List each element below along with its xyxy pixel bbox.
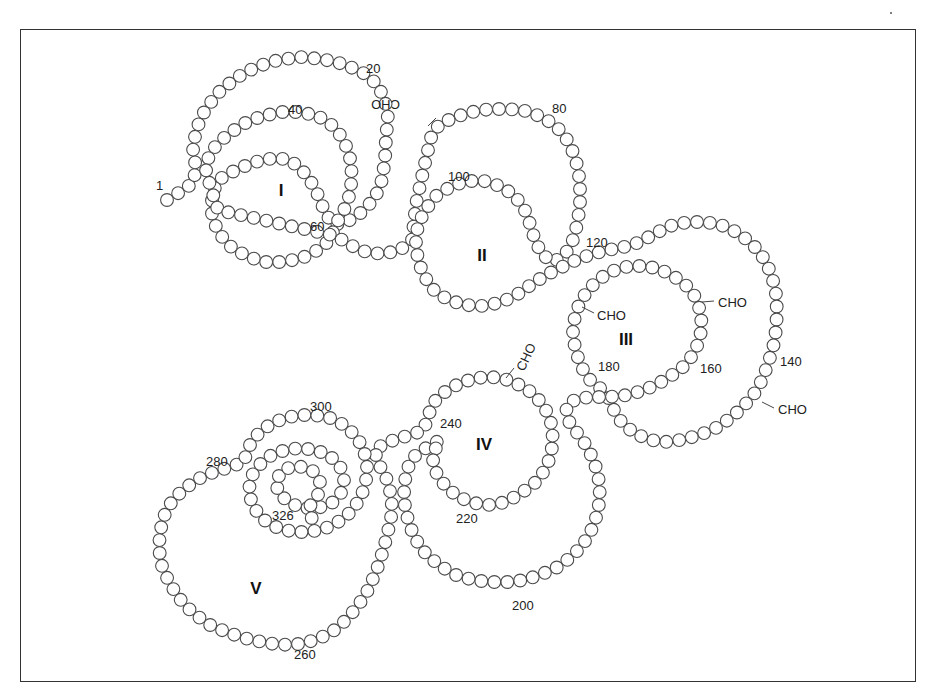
- residue-bead: [590, 511, 603, 524]
- residue-bead: [478, 175, 491, 188]
- residue-number-60: 60: [310, 219, 324, 234]
- residue-bead: [316, 630, 329, 643]
- residue-number-labels: 1204060801001201401601802002202402602803…: [156, 61, 802, 662]
- residue-bead: [261, 420, 274, 433]
- residue-bead: [321, 54, 334, 67]
- residue-bead: [592, 499, 605, 512]
- residue-bead: [273, 256, 286, 269]
- residue-bead: [422, 200, 435, 213]
- residue-bead: [345, 165, 358, 178]
- residue-bead: [345, 61, 358, 74]
- residue-bead: [276, 106, 289, 119]
- residue-bead: [507, 491, 520, 504]
- residue-bead: [379, 536, 392, 549]
- residue-bead: [519, 105, 532, 118]
- residue-bead: [375, 548, 388, 561]
- residue-bead: [546, 429, 559, 442]
- residue-bead: [573, 170, 586, 183]
- residue-bead: [442, 114, 455, 127]
- residue-bead: [673, 434, 686, 447]
- residue-bead: [568, 338, 581, 351]
- residue-bead: [643, 381, 656, 394]
- residue-bead: [487, 371, 500, 384]
- residue-bead: [328, 624, 341, 637]
- residue-bead: [285, 410, 298, 423]
- residue-bead: [308, 525, 321, 538]
- residue-bead: [523, 216, 536, 229]
- residue-bead: [379, 136, 392, 149]
- residue-bead: [158, 508, 171, 521]
- residue-bead: [188, 169, 201, 182]
- residue-bead: [560, 133, 573, 146]
- residue-bead: [614, 415, 627, 428]
- glycosylation-site-label: CHO: [778, 402, 807, 417]
- residue-bead: [203, 176, 216, 189]
- residue-bead: [240, 632, 253, 645]
- residue-bead: [454, 109, 467, 122]
- residue-bead: [239, 451, 252, 464]
- residue-bead: [620, 261, 633, 274]
- residue-bead: [250, 505, 263, 518]
- residue-bead: [377, 162, 390, 175]
- residue-bead: [314, 446, 327, 459]
- residue-bead: [427, 454, 440, 467]
- residue-bead: [247, 252, 260, 265]
- residue-bead: [475, 300, 488, 313]
- residue-bead: [414, 261, 427, 274]
- residue-bead: [326, 496, 339, 509]
- residue-bead: [512, 378, 525, 391]
- residue-bead: [574, 196, 587, 209]
- residue-bead: [264, 449, 277, 462]
- residue-bead: [411, 223, 424, 236]
- residue-bead: [386, 434, 399, 447]
- residue-bead: [531, 109, 544, 122]
- glycosylation-site-label: CHO: [371, 97, 400, 112]
- residue-bead: [470, 497, 483, 510]
- residue-bead: [769, 326, 782, 339]
- residue-bead: [361, 585, 374, 598]
- residue-bead: [343, 190, 356, 203]
- residue-bead: [410, 236, 423, 249]
- glycosylation-tick: [702, 301, 714, 302]
- residue-bead: [334, 461, 347, 474]
- residue-bead: [276, 445, 289, 458]
- residue-number-260: 260: [294, 647, 316, 662]
- residue-bead: [537, 466, 550, 479]
- residue-bead: [257, 58, 270, 71]
- residue-bead: [710, 422, 723, 435]
- residue-bead: [415, 211, 428, 224]
- residue-bead: [631, 386, 644, 399]
- residue-bead: [770, 313, 783, 326]
- residue-bead: [380, 472, 393, 485]
- residue-bead: [161, 194, 174, 207]
- residue-bead: [384, 485, 397, 498]
- residue-number-180: 180: [598, 359, 620, 374]
- residue-bead: [462, 572, 475, 585]
- residue-bead: [419, 156, 432, 169]
- residue-bead: [438, 291, 451, 304]
- residue-bead: [539, 566, 552, 579]
- residue-bead: [228, 628, 241, 641]
- residue-bead: [251, 155, 264, 168]
- residue-bead: [285, 220, 298, 233]
- residue-bead: [398, 430, 411, 443]
- residue-bead: [207, 189, 220, 202]
- residue-bead: [353, 436, 366, 449]
- residue-bead: [260, 214, 273, 227]
- residue-bead: [691, 339, 704, 352]
- residue-bead: [194, 472, 207, 485]
- residue-bead: [596, 270, 609, 283]
- residue-bead: [202, 152, 215, 165]
- residue-bead: [371, 561, 384, 574]
- residue-bead: [161, 571, 174, 584]
- residue-bead: [375, 85, 388, 98]
- residue-bead: [580, 250, 593, 263]
- residue-bead: [304, 499, 317, 512]
- residue-bead: [380, 123, 393, 136]
- residue-bead: [691, 216, 704, 229]
- residue-bead: [422, 144, 435, 157]
- residue-bead: [239, 160, 252, 173]
- residue-bead: [298, 223, 311, 236]
- residue-bead: [542, 455, 555, 468]
- residue-bead: [462, 374, 475, 387]
